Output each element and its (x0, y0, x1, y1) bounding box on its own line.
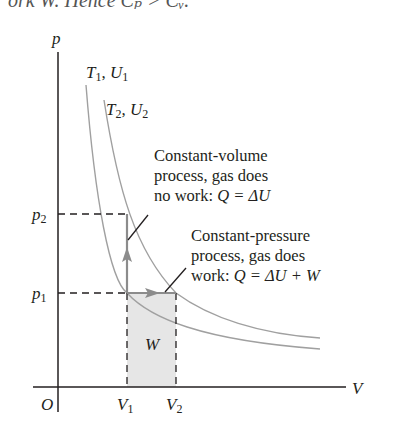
constant-pressure-leader (165, 268, 186, 292)
constant-pressure-annotation: Constant-pressure process, gas does work… (191, 226, 320, 286)
isotherm-t2-label: T2, U2 (106, 101, 148, 120)
isotherm-t1-label: T1, U1 (86, 64, 128, 83)
p1-tick-label: p1 (32, 285, 47, 304)
v2-tick-label: V2 (166, 396, 182, 415)
x-axis-label: V (352, 380, 362, 397)
constant-volume-annotation: Constant-volume process, gas does no wor… (154, 146, 270, 206)
origin-label: O (41, 396, 53, 413)
work-label: W (145, 336, 159, 353)
pv-diagram (0, 0, 399, 442)
v1-tick-label: V1 (117, 396, 133, 415)
y-axis-label: p (52, 30, 61, 47)
p2-tick-label: p2 (32, 206, 47, 225)
